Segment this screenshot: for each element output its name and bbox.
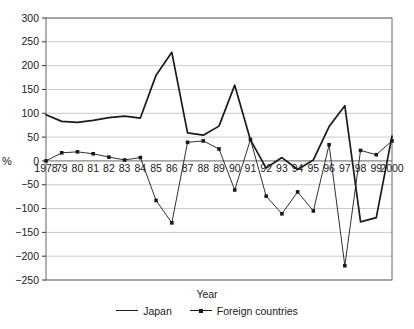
series-marker [374, 153, 378, 157]
series-marker [170, 221, 174, 225]
y-axis-tick-label: 100 [21, 107, 39, 119]
legend-item-japan: Japan [116, 305, 172, 317]
y-axis-tick-label: 200 [21, 59, 39, 71]
series-marker [343, 264, 347, 268]
x-axis-tick-label: 86 [166, 162, 178, 174]
x-axis-tick-label: 85 [150, 162, 162, 174]
legend-line-swatch-japan [116, 306, 138, 316]
legend-line-marker-swatch-foreign [190, 306, 212, 316]
legend-label-japan: Japan [143, 305, 172, 317]
series-marker [217, 147, 221, 151]
series-marker [249, 138, 253, 142]
series-line-foreign-countries [46, 139, 392, 265]
x-axis-tick-label: 1978 [34, 162, 58, 174]
legend-item-foreign-countries: Foreign countries [190, 305, 298, 317]
series-marker [60, 151, 64, 155]
chart-plot-area: 300250200150100500−50−100−150−200−250197… [0, 0, 414, 329]
y-axis-tick-label: 50 [27, 131, 39, 143]
y-axis-tick-label: 150 [21, 83, 39, 95]
series-marker [76, 150, 80, 154]
series-marker [186, 141, 190, 145]
x-axis-tick-label: 96 [323, 162, 335, 174]
x-axis-tick-label: 2000 [380, 162, 404, 174]
series-marker [264, 194, 268, 198]
y-axis-tick-label: 300 [21, 12, 39, 24]
x-axis-tick-label: 95 [308, 162, 320, 174]
x-axis-tick-label: 79 [56, 162, 68, 174]
x-axis-tick-label: 88 [197, 162, 209, 174]
x-axis-tick-label: 83 [119, 162, 131, 174]
series-marker [154, 199, 158, 203]
series-marker [139, 156, 143, 160]
y-axis-tick-label: −150 [15, 226, 39, 238]
series-marker [312, 209, 316, 213]
series-marker [296, 190, 300, 194]
series-marker [327, 143, 331, 147]
series-marker [233, 188, 237, 192]
y-axis-tick-label: −200 [15, 250, 39, 262]
x-axis-tick-label: 98 [355, 162, 367, 174]
y-axis-tick-label: 250 [21, 35, 39, 47]
series-marker [359, 149, 363, 153]
x-axis-tick-label: 89 [213, 162, 225, 174]
x-axis-tick-label: 91 [245, 162, 257, 174]
series-marker [107, 155, 111, 159]
x-axis-tick-label: 82 [103, 162, 115, 174]
x-axis-tick-label: 80 [72, 162, 84, 174]
x-axis-tick-label: 81 [87, 162, 99, 174]
series-marker [44, 159, 48, 163]
x-axis-tick-label: 97 [339, 162, 351, 174]
series-marker [201, 139, 205, 143]
chart-legend: Japan Foreign countries [0, 305, 414, 317]
y-axis-title: % [2, 155, 12, 167]
x-axis-tick-label: 94 [292, 162, 304, 174]
series-marker [91, 152, 95, 156]
x-axis-tick-label: 93 [276, 162, 288, 174]
series-marker [280, 212, 284, 216]
y-axis-tick-label: −100 [15, 202, 39, 214]
legend-label-foreign-countries: Foreign countries [217, 305, 298, 317]
x-axis-tick-label: 90 [229, 162, 241, 174]
x-axis-title: Year [0, 288, 414, 300]
y-axis-tick-label: −50 [21, 178, 39, 190]
line-chart: % 300250200150100500−50−100−150−200−2501… [0, 0, 414, 329]
series-marker [390, 139, 394, 143]
y-axis-tick-label: −250 [15, 274, 39, 286]
series-marker [123, 158, 127, 162]
